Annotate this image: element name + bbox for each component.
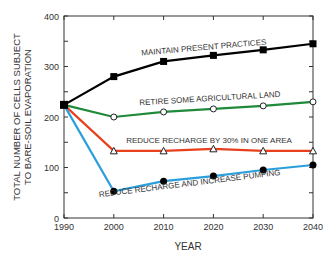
series-label: REDUCE RECHARGE AND INCREASE PUMPING [98, 168, 280, 199]
x-tick-label: 1990 [54, 222, 74, 232]
x-tick-label: 2030 [253, 222, 273, 232]
y-tick-label: 300 [44, 62, 59, 72]
y-tick-label: 100 [44, 163, 59, 173]
x-tick-label: 2040 [303, 222, 323, 232]
square-marker [260, 46, 267, 53]
square-marker [110, 73, 117, 80]
line-chart: 0100200300400199020002010202020302040 TO… [0, 0, 331, 259]
y-tick-label: 200 [44, 113, 59, 123]
series-labels: MAINTAIN PRESENT PRACTICESRETIRE SOME AG… [98, 38, 292, 200]
series-label: REDUCE RECHARGE BY 30% IN ONE AREA [126, 136, 292, 145]
svg-text:TO BARE-SOIL EVAPORATION: TO BARE-SOIL EVAPORATION [22, 49, 33, 185]
square-marker [210, 52, 217, 59]
series-label: MAINTAIN PRESENT PRACTICES [141, 38, 267, 58]
series-label: RETIRE SOME AGRICULTURAL LAND [139, 90, 281, 108]
circle-marker [310, 99, 316, 105]
dot-marker [310, 161, 317, 168]
y-axis-label: TOTAL NUMBER OF CELLS SUBJECTTO BARE-SOI… [11, 33, 33, 201]
circle-marker [260, 103, 266, 109]
circle-marker [161, 109, 167, 115]
x-tick-label: 2010 [154, 222, 174, 232]
square-marker [310, 40, 317, 47]
x-tick-label: 2020 [203, 222, 223, 232]
square-marker [160, 58, 167, 65]
circle-marker [111, 114, 117, 120]
x-axis-label: YEAR [174, 241, 201, 252]
x-tick-label: 2000 [104, 222, 124, 232]
svg-text:TOTAL NUMBER OF CELLS SUBJECT: TOTAL NUMBER OF CELLS SUBJECT [11, 33, 22, 201]
circle-marker [210, 106, 216, 112]
y-tick-label: 400 [44, 12, 59, 22]
